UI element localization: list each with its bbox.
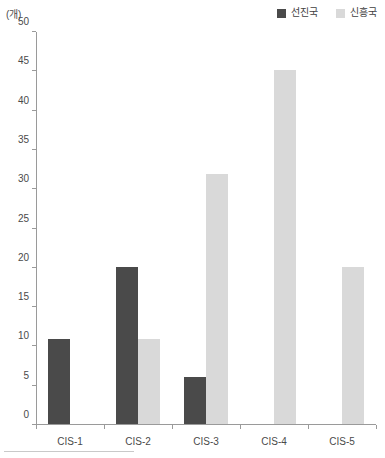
y-axis-tick [32,345,36,346]
bar[interactable] [48,339,70,424]
y-axis-tick-label: 10 [18,331,29,341]
y-axis-tick [32,267,36,268]
x-axis-line [36,424,376,425]
y-axis-tick-label: 35 [18,135,29,145]
y-axis-tick-label: 50 [18,17,29,27]
x-axis-tick [36,425,37,429]
y-axis-tick-label: 30 [18,174,29,184]
legend-entry[interactable]: 신흥국 [336,8,377,18]
y-axis-tick [32,228,36,229]
y-axis-tick-label: 40 [18,96,29,106]
bar[interactable] [342,267,364,424]
x-axis-tick-label: CIS-1 [57,437,83,447]
y-axis-tick [32,188,36,189]
y-axis-tick [32,385,36,386]
y-axis-tick [32,306,36,307]
legend-entry[interactable]: 선진국 [277,8,318,18]
y-axis-tick-label: 45 [18,56,29,66]
y-axis-tick [32,110,36,111]
y-axis-tick [32,31,36,32]
bar[interactable] [184,377,206,424]
y-axis-line [36,32,37,425]
y-axis-tick-label: 20 [18,253,29,263]
bar[interactable] [138,339,160,424]
y-axis-tick [32,70,36,71]
bar[interactable] [206,174,228,424]
x-axis-tick-label: CIS-2 [125,437,151,447]
x-axis-tick [172,425,173,429]
x-axis-tick [308,425,309,429]
bar-chart: (개) 선진국신흥국 50454035302520151050 CIS-1CIS… [0,0,385,458]
y-axis-tick-label: 15 [18,292,29,302]
legend-label: 신흥국 [350,8,377,18]
x-axis-tick [376,425,377,429]
legend-swatch-icon [336,9,345,18]
chart-legend: 선진국신흥국 [277,8,377,18]
y-axis-tick-label: 0 [23,410,29,420]
x-axis-tick-label: CIS-4 [261,437,287,447]
x-axis-tick-label: CIS-5 [329,437,355,447]
x-axis-tick [240,425,241,429]
plot-area: 50454035302520151050 CIS-1CIS-2CIS-3CIS-… [36,32,376,425]
bar[interactable] [116,267,138,424]
footer-divider [4,451,134,452]
y-axis-tick [32,149,36,150]
y-axis-tick-label: 25 [18,214,29,224]
legend-label: 선진국 [291,8,318,18]
y-axis-tick-label: 5 [23,371,29,381]
x-axis-tick [104,425,105,429]
legend-swatch-icon [277,9,286,18]
x-axis-tick-label: CIS-3 [193,437,219,447]
bar[interactable] [274,70,296,424]
